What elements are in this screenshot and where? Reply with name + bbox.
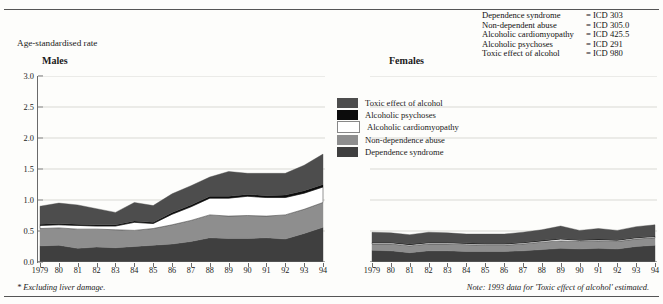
footnote-left: * Excluding liver damage. <box>17 283 105 292</box>
x-axis-tick-mark <box>542 263 543 267</box>
area-chart-males <box>38 76 325 262</box>
legend-item-label: Dependence syndrome <box>365 146 444 158</box>
legend-item: Alcoholic cardiomyopathy <box>337 121 459 133</box>
legend-swatch-icon <box>337 110 358 120</box>
panel-title-males: Males <box>42 55 68 66</box>
x-axis-tick-mark <box>410 263 411 267</box>
x-axis-tick-label: 88 <box>206 266 214 275</box>
x-axis-tick-label: 87 <box>187 266 195 275</box>
x-axis-tick-mark <box>429 263 430 267</box>
legend-item-label: Toxic effect of alcohol <box>365 97 443 109</box>
x-axis-tick-label: 85 <box>481 266 489 275</box>
y-axis-tick-label: 1.0 <box>8 196 34 205</box>
x-axis-tick-mark <box>617 263 618 267</box>
icd-key-name: Toxic effect of alcohol <box>482 49 586 59</box>
x-axis-tick-label: 87 <box>519 266 527 275</box>
x-axis-tick-mark <box>97 263 98 267</box>
x-axis-tick-label: 80 <box>55 266 63 275</box>
x-axis-tick-label: 92 <box>281 266 289 275</box>
x-axis-tick-label: 91 <box>262 266 270 275</box>
legend-item: Toxic effect of alcohol <box>337 97 459 109</box>
x-axis-tick-mark <box>191 263 192 267</box>
x-axis-tick-label: 81 <box>406 266 414 275</box>
x-axis-tick-mark <box>153 263 154 267</box>
x-axis-tick-label: 84 <box>462 266 470 275</box>
x-axis-tick-mark <box>115 263 116 267</box>
chart-legend: Toxic effect of alcoholAlcoholic psychos… <box>337 97 459 158</box>
x-axis-tick-label: 89 <box>225 266 233 275</box>
x-axis-tick-mark <box>134 263 135 267</box>
x-axis-tick-label: 90 <box>243 266 251 275</box>
x-axis-tick-label: 86 <box>500 266 508 275</box>
x-axis-tick-mark <box>285 263 286 267</box>
x-axis-tick-label: 91 <box>594 266 602 275</box>
x-axis-tick-mark <box>266 263 267 267</box>
x-axis-tick-mark <box>372 263 373 267</box>
x-axis-tick-label: 82 <box>425 266 433 275</box>
x-axis-tick-mark <box>78 263 79 267</box>
legend-item-label: Alcoholic cardiomyopathy <box>367 121 459 133</box>
x-axis-tick-mark <box>40 263 41 267</box>
x-axis-tick-mark <box>248 263 249 267</box>
x-axis-tick-label: 92 <box>613 266 621 275</box>
x-axis-tick-label: 82 <box>93 266 101 275</box>
x-axis-tick-label: 80 <box>387 266 395 275</box>
x-axis-tick-label: 88 <box>538 266 546 275</box>
x-axis-tick-mark <box>172 263 173 267</box>
legend-swatch-icon <box>337 135 358 145</box>
x-axis-tick-mark <box>59 263 60 267</box>
x-axis-tick-mark <box>523 263 524 267</box>
footnote-right: Note: 1993 data for 'Toxic effect of alc… <box>467 283 649 292</box>
x-axis-tick-mark <box>504 263 505 267</box>
icd-key-row: Toxic effect of alcohol= ICD 980 <box>482 49 658 59</box>
x-axis-tick-mark <box>229 263 230 267</box>
chart-page: Dependence syndrome= ICD 303Non-dependen… <box>0 0 663 304</box>
legend-item: Non-dependence abuse <box>337 134 459 146</box>
panel-title-females: Females <box>389 55 424 66</box>
x-axis-tick-label: 83 <box>443 266 451 275</box>
x-axis-tick-mark <box>304 263 305 267</box>
x-axis-tick-mark <box>636 263 637 267</box>
stacked-area-svg <box>38 76 325 262</box>
y-axis-tick-label: 2.5 <box>8 103 34 112</box>
x-axis-tick-mark <box>598 263 599 267</box>
legend-swatch-icon <box>337 121 360 133</box>
x-axis-tick-label: 93 <box>300 266 308 275</box>
x-axis-tick-mark <box>485 263 486 267</box>
legend-item-label: Non-dependence abuse <box>365 134 445 146</box>
y-axis-tick-label: 2.0 <box>8 134 34 143</box>
x-axis-tick-label: 1979 <box>32 266 48 275</box>
x-axis-tick-label: 93 <box>632 266 640 275</box>
icd-key-code: = ICD 980 <box>586 49 656 59</box>
legend-swatch-icon <box>337 147 358 157</box>
y-axis-title: Age-standardised rate <box>17 38 97 48</box>
legend-item: Alcoholic psychoses <box>337 109 459 121</box>
legend-swatch-icon <box>337 98 358 108</box>
y-axis: 0.00.51.01.52.02.53.0 <box>8 70 38 268</box>
x-axis-tick-mark <box>210 263 211 267</box>
x-axis-tick-mark <box>466 263 467 267</box>
x-axis-tick-label: 83 <box>111 266 119 275</box>
y-axis-tick-label: 3.0 <box>8 72 34 81</box>
x-axis-tick-label: 84 <box>130 266 138 275</box>
x-axis-tick-mark <box>561 263 562 267</box>
x-axis-tick-label: 90 <box>575 266 583 275</box>
x-axis-tick-mark <box>391 263 392 267</box>
x-axis-tick-label: 86 <box>168 266 176 275</box>
legend-item: Dependence syndrome <box>337 146 459 158</box>
x-axis-tick-mark <box>447 263 448 267</box>
x-axis-tick-label: 85 <box>149 266 157 275</box>
x-axis-tick-mark <box>323 263 324 267</box>
x-axis-tick-label: 94 <box>319 266 327 275</box>
y-axis-tick-label: 0.5 <box>8 227 34 236</box>
legend-item-label: Alcoholic psychoses <box>365 109 436 121</box>
bottom-divider <box>4 296 659 297</box>
x-axis-tick-label: 1979 <box>364 266 380 275</box>
x-axis-tick-mark <box>655 263 656 267</box>
x-axis-labels-males: 1979808182838485868788899091929394 <box>38 266 325 280</box>
x-axis-tick-label: 89 <box>557 266 565 275</box>
icd-key-box: Dependence syndrome= ICD 303Non-dependen… <box>482 11 658 59</box>
y-axis-tick-label: 1.5 <box>8 165 34 174</box>
x-axis-tick-label: 81 <box>74 266 82 275</box>
x-axis-labels-females: 1979808182838485868788899091929394 <box>370 266 657 280</box>
